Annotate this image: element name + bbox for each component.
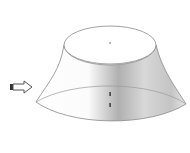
- side-mark-lower: [109, 103, 111, 107]
- top-ellipse: [64, 26, 156, 64]
- side-mark-upper: [109, 92, 111, 96]
- right-arrow-icon: [10, 81, 32, 93]
- frustum-svg: [0, 0, 190, 153]
- top-center-mark: [109, 42, 111, 44]
- frustum-diagram: [0, 0, 190, 153]
